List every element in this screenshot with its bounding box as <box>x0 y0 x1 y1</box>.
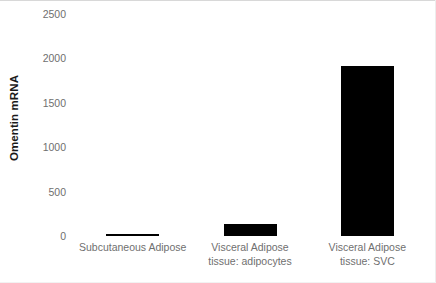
bar <box>341 66 394 236</box>
y-axis-tick-label: 1500 <box>43 97 66 109</box>
bars-layer <box>74 14 426 236</box>
x-axis-tick-label-line: Visceral Adipose <box>309 240 426 254</box>
y-axis-title-label: Omentin mRNA <box>8 75 20 161</box>
y-axis-tick-label: 0 <box>60 230 66 242</box>
x-axis-tick-label-line: tissue: SVC <box>309 254 426 268</box>
bar-chart: Omentin mRNA 05001000150020002500 Subcut… <box>0 0 436 283</box>
y-axis-tick-label: 2500 <box>43 8 66 20</box>
x-axis-tick-label-line: Visceral Adipose <box>191 240 308 254</box>
x-axis-tick-label: Visceral Adiposetissue: adipocytes <box>191 240 308 268</box>
x-axis-tick-label-line: tissue: adipocytes <box>191 254 308 268</box>
y-axis-tick-label: 500 <box>48 186 66 198</box>
x-axis-tick-label: Visceral Adiposetissue: SVC <box>309 240 426 268</box>
x-axis-tick-label: Subcutaneous Adipose <box>74 240 191 254</box>
x-axis-tick-labels: Subcutaneous AdiposeVisceral Adiposetiss… <box>74 240 426 283</box>
y-axis-tick-label: 1000 <box>43 141 66 153</box>
y-axis-title: Omentin mRNA <box>2 0 26 236</box>
bar <box>106 234 159 236</box>
y-axis-tick-label: 2000 <box>43 52 66 64</box>
plot-area <box>74 14 426 236</box>
x-axis-tick-label-line: Subcutaneous Adipose <box>74 240 191 254</box>
bar <box>224 224 277 236</box>
y-axis-tick-labels: 05001000150020002500 <box>26 0 70 283</box>
